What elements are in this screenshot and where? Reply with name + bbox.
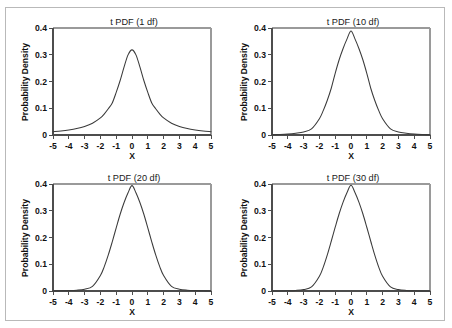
x-tick-label: -3 [81,297,89,307]
x-axis-ticks [272,135,430,139]
chart-svg-30df: t PDF (30 df) -5-4-3-2-1012345 00.10.20.… [225,164,444,320]
panel-title: t PDF (1 df) [110,17,157,27]
x-tick-label: 4 [412,141,417,151]
x-tick-label: -3 [81,141,89,151]
y-tick-label: 0.1 [254,259,266,269]
x-axis-ticks [53,135,211,139]
x-tick-label: -4 [65,297,73,307]
y-tick-labels: 00.10.20.30.4 [254,179,266,296]
t-pdf-curve [53,186,211,291]
x-tick-label: -4 [284,141,292,151]
panel-title: t PDF (10 df) [327,17,380,27]
panel-title: t PDF (20 df) [108,173,161,183]
y-tick-label: 0.4 [254,23,266,33]
x-tick-labels: -5-4-3-2-1012345 [49,297,213,307]
x-tick-label: 5 [209,141,214,151]
x-tick-labels: -5-4-3-2-1012345 [268,141,432,151]
x-tick-labels: -5-4-3-2-1012345 [49,141,213,151]
x-tick-label: 5 [428,141,433,151]
y-tick-label: 0.1 [35,259,47,269]
panel-title: t PDF (30 df) [327,173,380,183]
y-tick-label: 0.3 [254,50,266,60]
x-axis-title: X [129,307,135,317]
y-tick-label: 0.1 [35,103,47,113]
x-tick-label: 2 [161,141,166,151]
x-tick-label: 3 [396,141,401,151]
plot-frame [272,184,430,291]
plot-frame [53,28,211,135]
y-tick-label: 0.2 [254,233,266,243]
x-tick-label: 2 [380,297,385,307]
x-tick-labels: -5-4-3-2-1012345 [268,297,432,307]
t-pdf-curve [272,31,430,135]
chart-panel-1df: t PDF (1 df) -5-4-3-2-1012345 00.10.20.3… [6,8,225,164]
y-tick-label: 0 [42,286,47,296]
y-axis-ticks [268,184,272,291]
x-axis-title: X [129,151,135,161]
y-tick-label: 0.2 [35,233,47,243]
x-tick-label: 0 [130,297,135,307]
x-tick-label: 1 [364,141,369,151]
x-tick-label: 0 [349,141,354,151]
x-tick-label: -1 [112,141,120,151]
x-tick-label: 4 [193,141,198,151]
x-tick-label: 2 [380,141,385,151]
y-axis-ticks [49,28,53,135]
x-tick-label: 1 [145,297,150,307]
t-pdf-curve [53,50,211,132]
y-tick-labels: 00.10.20.30.4 [35,179,47,296]
x-tick-label: 5 [428,297,433,307]
x-axis-ticks [53,291,211,295]
x-tick-label: 3 [177,297,182,307]
x-axis-ticks [272,291,430,295]
x-tick-label: -1 [112,297,120,307]
x-tick-label: -1 [331,141,339,151]
x-tick-label: 1 [364,297,369,307]
y-tick-labels: 00.10.20.30.4 [35,23,47,140]
y-axis-title: Probability Density [20,43,30,121]
x-tick-label: -1 [331,297,339,307]
panel-grid: t PDF (1 df) -5-4-3-2-1012345 00.10.20.3… [6,8,444,320]
y-axis-ticks [268,28,272,135]
x-tick-label: -5 [49,297,57,307]
x-tick-label: -5 [49,141,57,151]
x-tick-label: -2 [97,297,105,307]
t-pdf-curve [272,185,430,291]
y-tick-label: 0.3 [254,206,266,216]
plot-frame [53,184,211,291]
x-tick-label: -3 [300,297,308,307]
chart-panel-20df: t PDF (20 df) -5-4-3-2-1012345 00.10.20.… [6,164,225,320]
x-tick-label: 0 [130,141,135,151]
chart-panel-30df: t PDF (30 df) -5-4-3-2-1012345 00.10.20.… [225,164,444,320]
x-tick-label: -2 [316,141,324,151]
x-axis-title: X [348,151,354,161]
y-tick-label: 0.3 [35,50,47,60]
x-tick-label: -5 [268,297,276,307]
x-tick-label: -3 [300,141,308,151]
y-tick-label: 0.4 [35,23,47,33]
y-tick-label: 0.3 [35,206,47,216]
x-tick-label: 5 [209,297,214,307]
y-axis-ticks [49,184,53,291]
y-axis-title: Probability Density [239,43,249,121]
y-tick-label: 0 [261,286,266,296]
y-tick-label: 0.2 [254,77,266,87]
x-tick-label: 2 [161,297,166,307]
y-tick-label: 0 [42,130,47,140]
chart-svg-20df: t PDF (20 df) -5-4-3-2-1012345 00.10.20.… [6,164,225,320]
x-tick-label: -2 [97,141,105,151]
x-tick-label: 3 [177,141,182,151]
y-tick-label: 0.4 [35,179,47,189]
plot-frame [272,28,430,135]
y-tick-label: 0.4 [254,179,266,189]
x-tick-label: -4 [65,141,73,151]
x-tick-label: -2 [316,297,324,307]
figure-root: t PDF (1 df) -5-4-3-2-1012345 00.10.20.3… [0,0,452,328]
x-tick-label: -5 [268,141,276,151]
y-tick-label: 0.1 [254,103,266,113]
chart-svg-10df: t PDF (10 df) -5-4-3-2-1012345 00.10.20.… [225,8,444,164]
chart-panel-10df: t PDF (10 df) -5-4-3-2-1012345 00.10.20.… [225,8,444,164]
x-tick-label: 0 [349,297,354,307]
y-tick-label: 0 [261,130,266,140]
y-axis-title: Probability Density [20,199,30,277]
